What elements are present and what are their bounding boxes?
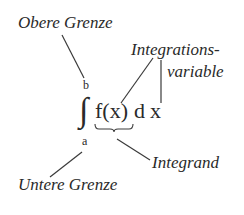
integral-sign: ∫ bbox=[77, 91, 91, 131]
leader-variable-diagonal bbox=[121, 58, 153, 103]
leader-integrand bbox=[117, 139, 150, 160]
integration-variable: x bbox=[150, 98, 161, 123]
underbrace-icon bbox=[95, 124, 133, 132]
integral-diagram: Obere Grenze Integrations- variable Inte… bbox=[0, 0, 244, 215]
label-variable-line1: Integrations- bbox=[130, 40, 220, 59]
label-lower-bound: Untere Grenze bbox=[18, 175, 118, 194]
label-upper-bound: Obere Grenze bbox=[18, 13, 113, 32]
label-integrand: Integrand bbox=[151, 153, 220, 172]
label-variable-line2: variable bbox=[167, 62, 224, 81]
differential-d: d bbox=[134, 98, 145, 123]
leader-upper-bound bbox=[62, 35, 84, 78]
upper-limit: b bbox=[83, 78, 89, 92]
lower-limit: a bbox=[82, 134, 88, 148]
leader-lower-bound bbox=[50, 152, 82, 177]
integrand-expression: f(x) bbox=[95, 98, 128, 123]
